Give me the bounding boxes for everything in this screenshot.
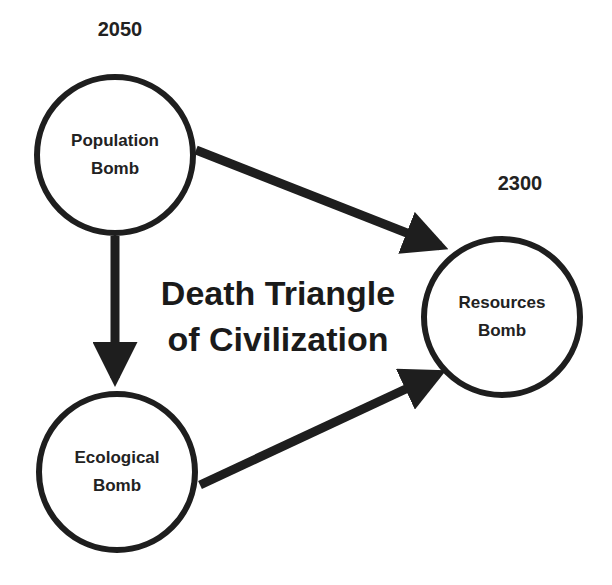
diagram-title-line1: Death Triangle [128,270,428,316]
year-label-2300: 2300 [480,172,560,195]
arrow-population-to-resources [196,150,440,246]
node-population-label: Population Bomb [40,127,190,183]
node-ecological-line1: Ecological [42,444,192,472]
node-resources-line2: Bomb [427,317,577,345]
node-resources-label: Resources Bomb [427,289,577,345]
diagram-title-line2: of Civilization [128,316,428,362]
diagram-title: Death Triangle of Civilization [128,270,428,362]
arrow-ecological-to-resources [200,374,438,485]
year-label-2050: 2050 [80,18,160,41]
node-resources-line1: Resources [427,289,577,317]
node-ecological-label: Ecological Bomb [42,444,192,500]
node-population-line2: Bomb [40,155,190,183]
node-ecological-line2: Bomb [42,472,192,500]
node-population-line1: Population [40,127,190,155]
